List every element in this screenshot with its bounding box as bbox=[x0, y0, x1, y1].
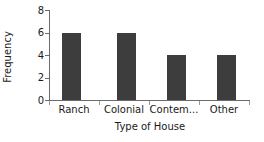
bar-contem bbox=[167, 55, 186, 100]
x-category-label-colonial: Colonial bbox=[99, 104, 149, 116]
x-tick-mark-4 bbox=[249, 101, 250, 105]
x-axis-title: Type of House bbox=[50, 121, 250, 133]
x-category-label-ranch: Ranch bbox=[49, 104, 99, 116]
y-tick-label-2: 2 bbox=[28, 73, 44, 83]
x-category-label-contem: Contem... bbox=[149, 104, 199, 116]
bar-colonial bbox=[117, 33, 136, 101]
y-tick-label-0: 0 bbox=[28, 96, 44, 106]
y-axis-tick-labels: 8 6 4 2 0 bbox=[28, 0, 44, 142]
bar-other bbox=[217, 55, 236, 100]
bar-chart: Frequency 8 6 4 2 0 Ranch Colonial Conte… bbox=[0, 0, 264, 142]
y-axis-title: Frequency bbox=[1, 2, 15, 112]
plot-area bbox=[50, 10, 250, 100]
bar-ranch bbox=[62, 33, 81, 101]
y-tick-label-4: 4 bbox=[28, 51, 44, 61]
y-tick-label-6: 6 bbox=[28, 28, 44, 38]
x-category-label-other: Other bbox=[199, 104, 249, 116]
y-tick-label-8: 8 bbox=[28, 6, 44, 16]
